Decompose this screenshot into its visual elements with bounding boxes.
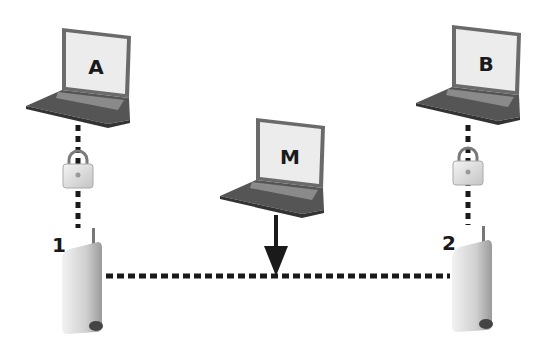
laptop-m: M <box>220 118 325 218</box>
router-2-label: 2 <box>442 231 456 255</box>
laptop-a: A <box>26 28 131 128</box>
lock-icon <box>63 151 93 188</box>
router-2: 2 <box>442 226 493 332</box>
intercept-arrow <box>264 215 288 276</box>
router-1-label: 1 <box>52 233 66 257</box>
laptop-m-label: M <box>280 145 300 169</box>
router-1: 1 <box>52 228 103 334</box>
network-diagram: A B M 1 <box>0 0 550 338</box>
lock-icon <box>453 148 483 185</box>
laptop-a-label: A <box>88 55 104 79</box>
laptop-b-label: B <box>478 52 493 76</box>
laptop-b: B <box>416 25 521 125</box>
